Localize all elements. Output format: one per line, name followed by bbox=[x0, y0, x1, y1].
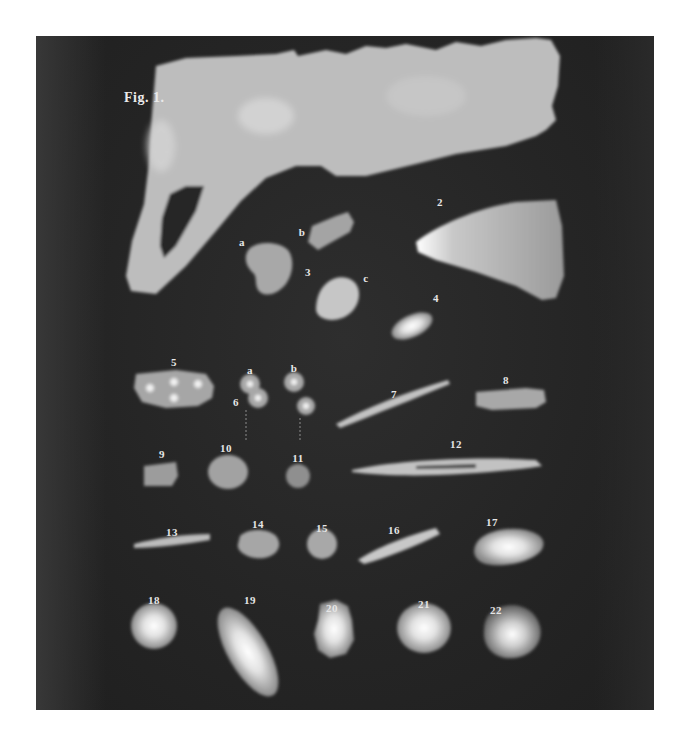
label-3a: a bbox=[239, 237, 245, 248]
label-13: 13 bbox=[166, 527, 178, 538]
label-6b: b bbox=[291, 363, 298, 374]
label-18: 18 bbox=[148, 595, 160, 606]
label-2: 2 bbox=[437, 197, 443, 208]
label-6a: a bbox=[247, 365, 253, 376]
specimen-10 bbox=[208, 455, 248, 489]
specimen-3c bbox=[316, 277, 359, 320]
label-6: 6 bbox=[233, 397, 239, 408]
specimen-drawings bbox=[36, 36, 654, 710]
label-20: 20 bbox=[326, 603, 338, 614]
specimen-12 bbox=[352, 458, 542, 475]
specimen-14 bbox=[238, 530, 279, 558]
specimen-9 bbox=[144, 462, 178, 486]
label-22: 22 bbox=[490, 605, 502, 616]
label-3: 3 bbox=[305, 267, 311, 278]
specimen-19 bbox=[206, 599, 291, 706]
label-21: 21 bbox=[418, 599, 430, 610]
specimen-6b bbox=[284, 372, 315, 415]
figure-title: Fig. 1. bbox=[124, 90, 164, 106]
specimen-5 bbox=[134, 370, 214, 408]
label-11: 11 bbox=[292, 453, 303, 464]
label-19: 19 bbox=[244, 595, 256, 606]
specimen-17 bbox=[474, 529, 543, 565]
specimen-6a bbox=[240, 374, 268, 408]
label-3c: c bbox=[363, 273, 368, 284]
figure-plate: Fig. 1. 2 a b 3 c 4 5 a b 6 7 8 9 10 11 … bbox=[36, 36, 654, 710]
specimen-4 bbox=[387, 307, 436, 346]
specimen-3a bbox=[246, 243, 293, 295]
specimen-8 bbox=[476, 388, 546, 410]
specimen-15 bbox=[307, 529, 337, 559]
label-5: 5 bbox=[171, 357, 177, 368]
label-4: 4 bbox=[433, 293, 439, 304]
label-10: 10 bbox=[220, 443, 232, 454]
label-9: 9 bbox=[159, 449, 165, 460]
label-15: 15 bbox=[316, 523, 328, 534]
specimen-21 bbox=[397, 603, 451, 653]
label-3b: b bbox=[299, 227, 306, 238]
label-14: 14 bbox=[252, 519, 264, 530]
label-7: 7 bbox=[391, 389, 397, 400]
label-17: 17 bbox=[486, 517, 498, 528]
label-8: 8 bbox=[503, 375, 509, 386]
specimen-18 bbox=[131, 603, 177, 649]
specimen-3b bbox=[308, 212, 354, 250]
label-16: 16 bbox=[388, 525, 400, 536]
specimen-11 bbox=[286, 464, 310, 488]
specimen-2 bbox=[416, 200, 564, 300]
label-12: 12 bbox=[450, 439, 462, 450]
